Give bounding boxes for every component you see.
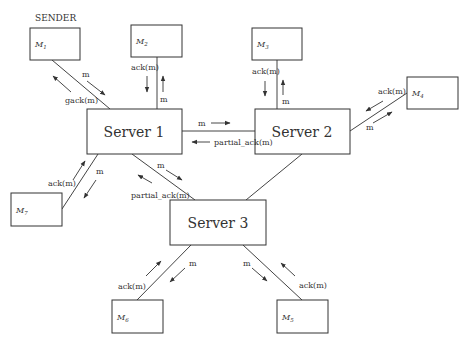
msg-m2-s1-forward: m xyxy=(160,95,168,104)
msg-m1-s1-back: gack(m) xyxy=(65,96,98,105)
sender-label: SENDER xyxy=(35,13,76,23)
server-topology-diagram: SENDER M1 M2 M3 M4 M7 M6 M5 Server 1 Ser… xyxy=(0,0,471,345)
msg-m2-s1-back: ack(m) xyxy=(131,63,159,72)
link-server2-server3 xyxy=(246,154,302,200)
arrow-s1-to-m7 xyxy=(84,180,96,198)
server-2: Server 2 xyxy=(255,109,350,154)
link-server3-m6 xyxy=(137,245,191,300)
msg-s1-m7-back: ack(m) xyxy=(48,179,76,188)
msg-m4-s2-forward: m xyxy=(366,123,374,132)
member-m1: M1 xyxy=(30,28,80,60)
arrow-s2-to-m4 xyxy=(366,101,383,111)
arrow-m1-to-s1 xyxy=(87,81,105,95)
msg-m3-s2-forward: m xyxy=(282,97,290,106)
member-m4: M4 xyxy=(407,77,458,109)
msg-s1-s3-back: partial_ack(m) xyxy=(131,191,190,200)
msg-s3-m5-back: ack(m) xyxy=(299,281,327,290)
msg-s1-s2-back: partial_ack(m) xyxy=(214,138,273,147)
member-m3: M3 xyxy=(252,28,302,60)
msg-s3-m6-forward: m xyxy=(189,259,197,268)
member-m5: M5 xyxy=(277,300,328,333)
link-m4-server2 xyxy=(350,93,407,131)
member-m7: M7 xyxy=(11,193,62,226)
server-2-label: Server 2 xyxy=(272,124,333,140)
server-1-label: Server 1 xyxy=(104,124,165,140)
arrow-s3-to-m6 xyxy=(170,268,185,282)
arrow-m6-to-s3 xyxy=(146,261,161,276)
member-m2: M2 xyxy=(131,25,182,57)
msg-m4-s2-back: ack(m) xyxy=(378,87,406,96)
arrow-s1-to-m1 xyxy=(53,76,71,92)
server-3-label: Server 3 xyxy=(188,215,249,231)
msg-s3-m5-forward: m xyxy=(243,259,251,268)
msg-s3-m6-back: ack(m) xyxy=(118,282,146,291)
msg-m1-s1-forward: m xyxy=(82,70,90,79)
msg-s1-s3-forward: m xyxy=(157,161,165,170)
arrow-s3-to-m5 xyxy=(252,268,267,281)
msg-s1-s2-forward: m xyxy=(198,119,206,128)
arrow-m5-to-s3 xyxy=(281,263,295,276)
member-m6: M6 xyxy=(112,300,163,333)
server-3: Server 3 xyxy=(170,200,266,245)
link-server3-m5 xyxy=(243,245,302,300)
msg-m3-s2-back: ack(m) xyxy=(252,67,280,76)
server-1: Server 1 xyxy=(87,109,182,154)
arrow-s1-to-s3 xyxy=(166,170,182,180)
msg-s1-m7-forward: m xyxy=(96,167,104,176)
arrow-s3-to-s1 xyxy=(138,175,152,183)
